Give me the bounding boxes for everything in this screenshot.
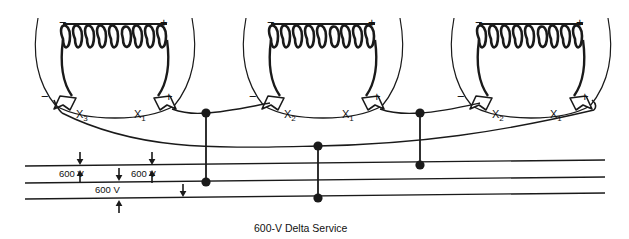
conductor-t2x1-to-t3x2 xyxy=(380,103,480,114)
terminal-subscript: 1 xyxy=(349,114,353,123)
junction-dot-top-left xyxy=(201,108,210,117)
voltage-label-left: 600 V xyxy=(59,168,84,179)
transformer-2-coil-plus: + xyxy=(368,16,376,29)
figure-caption: 600-V Delta Service xyxy=(254,222,347,234)
voltage-arrow-right-down xyxy=(149,152,156,165)
transformer-1-terminal-right-label: X1 xyxy=(134,108,146,123)
terminal-subscript: 1 xyxy=(141,114,145,123)
conductor-t1x1-to-t2x2 xyxy=(172,103,270,114)
voltage-arrow-left-down xyxy=(77,152,84,165)
transformer-2-terminal-right-label: X1 xyxy=(342,108,354,123)
transformer-1-lead-plus: + xyxy=(165,90,173,103)
transformer-1-terminal-left-label: X3 xyxy=(76,108,88,123)
voltage-label-right: 600 V xyxy=(131,168,156,179)
terminal-subscript: 2 xyxy=(499,114,503,123)
transformer-2-terminal-left-label: X2 xyxy=(284,108,296,123)
transformer-3-terminal-right-label: X1 xyxy=(550,108,562,123)
transformer-2-coil-minus: − xyxy=(267,16,275,29)
voltage-arrow-bottom-down-a xyxy=(116,168,123,181)
junction-dot-bottom-left xyxy=(201,177,210,186)
transformer-3-coil-plus: + xyxy=(576,16,584,29)
transformer-3-terminal-left-label: X2 xyxy=(492,108,504,123)
junction-dot-top-right xyxy=(415,108,424,117)
junction-dot-top-middle xyxy=(313,141,322,150)
terminal-subscript: 3 xyxy=(83,114,87,123)
bus-line-2 xyxy=(25,177,605,183)
transformer-1-lead-minus: − xyxy=(41,90,49,103)
voltage-arrow-bottom-down-b xyxy=(180,184,187,197)
terminal-subscript: 2 xyxy=(291,114,295,123)
junction-dot-bottom-right xyxy=(415,160,424,169)
transformer-1-coil-minus: − xyxy=(59,16,67,29)
delta-service-diagram: − + − + X3 X1 − + − + X2 X1 − + − + X2 X… xyxy=(0,0,629,239)
voltage-label-bottom: 600 V xyxy=(95,184,120,195)
transformer-1-coil-plus: + xyxy=(160,16,168,29)
transformer-2-lead-plus: + xyxy=(373,90,381,103)
voltage-arrow-bottom-up xyxy=(116,200,123,213)
diagram-canvas xyxy=(0,0,629,239)
transformer-3-lead-plus: + xyxy=(581,90,589,103)
transformer-2-lead-minus: − xyxy=(249,90,257,103)
transformer-3-lead-minus: − xyxy=(457,90,465,103)
junction-dot-bottom-middle xyxy=(313,193,322,202)
transformer-3-coil-minus: − xyxy=(475,16,483,29)
terminal-subscript: 1 xyxy=(557,114,561,123)
bus-line-1 xyxy=(25,160,605,166)
